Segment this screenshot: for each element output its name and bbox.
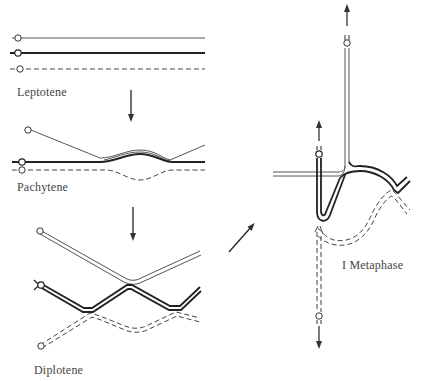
centromere-icon bbox=[38, 282, 44, 288]
pachytene-thick-chromosome bbox=[12, 154, 205, 165]
centromere-icon bbox=[17, 66, 23, 72]
centromere-icon bbox=[15, 35, 21, 41]
diplotene-dashed-chromosome bbox=[38, 312, 200, 349]
leptotene-thick-chromosome bbox=[10, 50, 205, 56]
label-diplotene: Diplotene bbox=[34, 363, 83, 378]
centromere-icon bbox=[19, 159, 25, 165]
centromere-icon bbox=[37, 228, 43, 234]
diplotene-thick-chromosome bbox=[34, 280, 201, 312]
centromere-icon bbox=[25, 127, 31, 133]
leptotene-group bbox=[10, 35, 205, 118]
centromere-icon bbox=[15, 50, 21, 56]
metaphase-thin-chromosome bbox=[273, 35, 350, 176]
centromere-icon bbox=[316, 151, 322, 157]
leptotene-dashed-chromosome bbox=[10, 66, 205, 72]
centromere-icon bbox=[19, 167, 25, 173]
label-metaphase-1: I Metaphase bbox=[342, 258, 403, 273]
metaphase-group bbox=[273, 8, 410, 345]
centromere-icon bbox=[344, 40, 350, 46]
diplotene-thin-chromosome bbox=[37, 228, 201, 284]
label-leptotene: Leptotene bbox=[17, 85, 67, 100]
arrow-up-right-icon bbox=[229, 226, 252, 252]
pachytene-thin-chromosome bbox=[25, 127, 205, 161]
label-pachytene: Pachytene bbox=[17, 180, 68, 195]
centromere-icon bbox=[38, 343, 44, 349]
leptotene-thin-chromosome bbox=[12, 35, 205, 41]
centromere-icon bbox=[316, 313, 322, 319]
pachytene-dashed-chromosome bbox=[12, 167, 205, 180]
metaphase-dashed-chromosome bbox=[315, 190, 410, 324]
metaphase-thick-chromosome bbox=[316, 146, 410, 221]
diplotene-group bbox=[34, 228, 201, 349]
meiosis-diagram: Leptotene Pachytene Diplotene I Metaphas… bbox=[0, 0, 421, 381]
